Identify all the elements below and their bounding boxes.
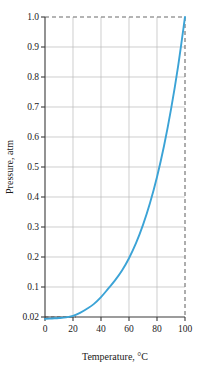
x-tick-label: 60	[124, 324, 134, 334]
y-tick-label: 1.0	[27, 12, 39, 22]
y-tick-label: 0.5	[27, 162, 39, 172]
x-tick-label: 40	[96, 324, 106, 334]
x-tick-label: 0	[43, 324, 48, 334]
y-tick-label: 0.4	[27, 192, 39, 202]
y-tick-label: 0.3	[27, 222, 39, 232]
pressure-temperature-chart: 0.020.10.20.30.40.50.60.70.80.91.0 02040…	[0, 0, 201, 371]
y-axis-title: Pressure, atm	[4, 140, 15, 194]
x-tick-label: 80	[152, 324, 162, 334]
y-tick-label: 0.2	[27, 252, 39, 262]
y-tick-label: 0.02	[22, 312, 39, 322]
y-tick-label: 0.8	[27, 72, 39, 82]
y-tick-label: 0.9	[27, 42, 39, 52]
x-axis-title: Temperature, °C	[82, 351, 148, 362]
x-tick-label: 100	[178, 324, 193, 334]
y-tick-label: 0.7	[27, 102, 39, 112]
y-tick-label: 0.1	[27, 282, 39, 292]
x-tick-label: 20	[68, 324, 78, 334]
chart-figure: 0.020.10.20.30.40.50.60.70.80.91.0 02040…	[0, 0, 201, 371]
y-tick-label: 0.6	[27, 132, 39, 142]
